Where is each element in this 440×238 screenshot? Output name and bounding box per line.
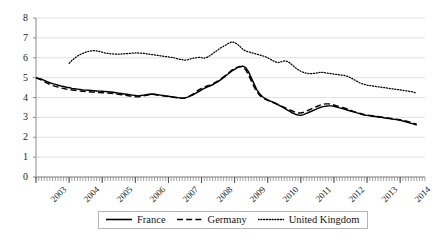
legend-item: Germany [177,214,247,225]
y-axis-label: 0 [12,172,28,182]
legend-item: France [106,214,166,225]
y-axis-label: 7 [12,33,28,43]
series-line-united-kingdom [69,42,417,93]
y-axis-label: 1 [12,152,28,162]
legend-line-swatch-solid [106,216,132,223]
y-axis-label: 6 [12,53,28,63]
series-line-france [36,66,417,125]
legend-line-swatch-dotted [258,216,284,223]
y-axis-label: 3 [12,112,28,122]
legend-label: United Kingdom [289,214,360,225]
y-axis-label: 2 [12,132,28,142]
y-axis-label: 4 [12,93,28,103]
y-axis-label: 5 [12,73,28,83]
legend-label: France [137,214,166,225]
y-axis-label: 8 [12,13,28,23]
legend-label: Germany [208,214,247,225]
legend-line-swatch-dashed [177,216,203,223]
line-chart: 876543210 200320042005200620072008200920… [0,0,440,238]
legend-item: United Kingdom [258,214,360,225]
chart-legend: FranceGermanyUnited Kingdom [98,211,368,229]
